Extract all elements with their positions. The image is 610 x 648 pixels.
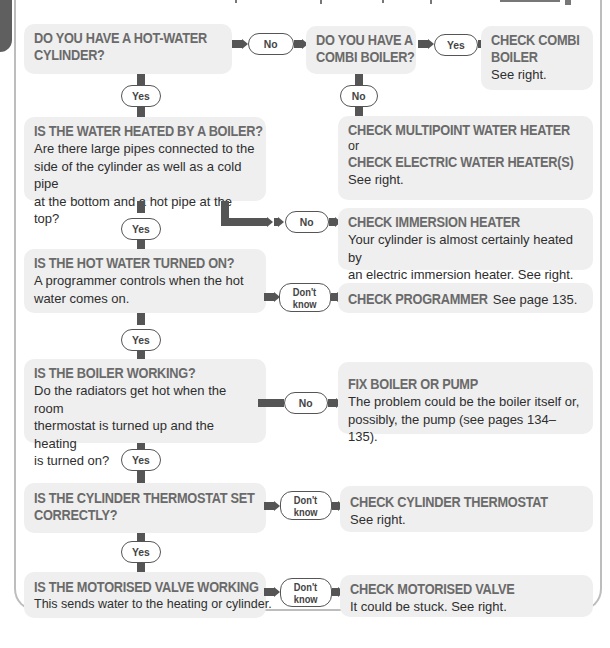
connector: [232, 40, 242, 48]
section-tab: [0, 0, 12, 52]
dont-know-label: Don'tknow: [280, 578, 332, 607]
yes-label: Yes: [121, 218, 161, 240]
dont-know-label: Don'tknow: [279, 283, 331, 312]
connector: [258, 399, 284, 407]
no-label: No: [248, 33, 294, 55]
result-check-multipoint-or-electric-heater: CHECK MULTIPOINT WATER HEATER or CHECK E…: [338, 116, 593, 200]
connector: [294, 40, 302, 48]
no-label: No: [340, 85, 378, 107]
connector: [137, 201, 145, 213]
connector: [418, 40, 428, 48]
no-label: No: [285, 211, 329, 233]
connector: [221, 218, 267, 226]
question-combi-boiler: DO YOU HAVE A COMBI BOILER?: [306, 26, 416, 74]
arrow-right-icon: [267, 217, 273, 227]
result-check-cylinder-thermostat: CHECK CYLINDER THERMOSTAT See right.: [340, 486, 593, 532]
yes-label: Yes: [121, 541, 161, 563]
question-boiler-working: IS THE BOILER WORKING? Do the radiators …: [24, 359, 266, 443]
question-hot-water-cylinder: DO YOU HAVE A HOT-WATER CYLINDER?: [24, 24, 232, 74]
yes-label: Yes: [121, 85, 161, 107]
no-label: No: [284, 392, 328, 414]
question-water-heated-by-boiler: IS THE WATER HEATED BY A BOILER? Are the…: [24, 117, 266, 201]
result-check-programmer: CHECK PROGRAMMERSee page 135.: [338, 283, 593, 313]
yes-label: Yes: [121, 449, 161, 471]
connector: [264, 293, 274, 301]
cropped-text-fragment: [200, 0, 580, 6]
arrow-right-icon: [278, 217, 284, 227]
question-motorised-valve-working: IS THE MOTORISED VALVE WORKING This send…: [24, 572, 266, 618]
question-cylinder-thermostat-set: IS THE CYLINDER THERMOSTAT SET CORRECTLY…: [24, 483, 266, 533]
connector: [137, 313, 145, 325]
result-check-immersion-heater: CHECK IMMERSION HEATER Your cylinder is …: [338, 208, 593, 270]
yes-label: Yes: [121, 329, 161, 351]
dont-know-label: Don'tknow: [280, 491, 332, 520]
yes-label: Yes: [434, 34, 478, 56]
connector: [328, 399, 336, 407]
question-hot-water-turned-on: IS THE HOT WATER TURNED ON? A programmer…: [24, 249, 266, 313]
connector: [137, 107, 145, 117]
result-check-motorised-valve: CHECK MOTORISED VALVE It could be stuck.…: [340, 575, 593, 617]
result-fix-boiler-or-pump: FIX BOILER OR PUMP The problem could be …: [338, 362, 593, 434]
connector: [264, 502, 274, 510]
result-check-combi-boiler: CHECK COMBI BOILER See right.: [481, 26, 593, 90]
connector: [264, 588, 274, 596]
